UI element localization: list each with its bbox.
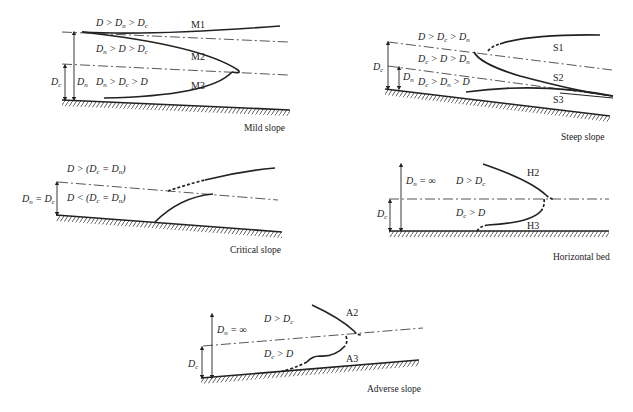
dn-label: Dn [402,71,414,84]
critical-depth-line [62,64,288,75]
region-label: D > Dc [263,313,294,326]
curve-label-a3: A3 [346,353,358,364]
curve-label-s1: S1 [553,42,564,53]
curve-s1-dashed [488,44,500,51]
dn-label: Dn [76,76,88,89]
region-label: D < (Dc = Dn) [66,192,126,205]
curve-label-s3: S3 [553,94,564,105]
region-label: D > Dc > Dn [417,31,470,44]
curve-h3-dashed-bottom [477,225,488,231]
region-label: Dn > Dc > D [95,76,149,89]
dn-infinity-label: Dn = ∞ [405,175,436,188]
panel-adverse-slope: Dn = ∞ Dc D > Dc Dc > D A2 A3 Adverse sl… [187,305,423,394]
curve-label-m1: M1 [191,19,205,30]
dn-eq-dc-label: Dn = Dc [21,193,56,206]
dc-label: Dc [187,358,199,371]
curve-c1-dashed [168,180,205,191]
caption-horizontal-bed: Horizontal bed [553,252,610,262]
channel-bed [385,89,610,116]
curve-c1 [205,168,275,180]
caption-mild-slope: Mild slope [244,123,285,133]
dc-label: Dc [376,208,388,221]
region-label: Dc > D [455,207,486,220]
curve-label-m3: M3 [191,80,205,91]
region-label: D > Dc [455,175,486,188]
region-label: Dc > D [263,348,294,361]
region-label: D > (Dc = Dn) [66,163,126,176]
caption-critical-slope: Critical slope [230,245,281,255]
curve-s3 [466,88,613,96]
channel-bed [201,360,419,378]
caption-steep-slope: Steep slope [561,132,605,142]
panel-critical-slope: Dn = Dc D > (Dc = Dn) D < (Dc = Dn) Crit… [21,163,282,255]
region-label: Dn > D > Dc [95,43,149,56]
curve-label-m2: M2 [191,51,205,62]
dc-label: Dc [50,76,62,89]
dc-label: Dc [372,61,384,74]
curve-s1 [500,35,600,44]
curve-c3 [155,194,213,222]
curve-label-a2: A2 [346,307,358,318]
curve-a3-dashed-top [345,336,347,346]
panel-horizontal-bed: Dn = ∞ Dc D > Dc Dc > D H2 H3 Horizontal… [376,164,610,262]
curve-h3-dashed-top [541,199,544,211]
region-label: D > Dn > Dc [95,17,149,30]
curve-label-h3: H3 [527,220,539,231]
dn-infinity-label: Dn = ∞ [216,324,247,337]
panel-steep-slope: Dc Dn D > Dc > Dn Dc > D > Dn Dc > Dn > … [372,31,613,142]
curve-h2-dashed [546,195,553,199]
curve-label-h2: H2 [527,167,539,178]
region-label: Dc > Dn > D [417,76,471,89]
caption-adverse-slope: Adverse slope [367,384,421,394]
gradually-varied-flow-profiles: Dc Dn D > Dn > Dc Dn > D > Dc Dn > Dc > … [0,0,633,412]
curve-a3 [307,346,345,362]
region-label: Dc > D > Dn [417,53,470,66]
panel-mild-slope: Dc Dn D > Dn > Dc Dn > D > Dc Dn > Dc > … [50,17,290,133]
curve-label-s2: S2 [553,72,564,83]
